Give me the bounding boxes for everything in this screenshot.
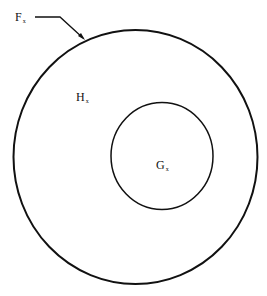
label-g: Gx xyxy=(156,159,169,172)
label-f: Fx xyxy=(15,11,26,24)
label-h: Hx xyxy=(76,91,89,104)
label-f-text: F xyxy=(15,10,22,24)
label-h-subscript: x xyxy=(86,98,89,104)
label-g-subscript: x xyxy=(166,166,169,172)
label-h-text: H xyxy=(76,90,85,104)
diagram-canvas xyxy=(0,0,267,296)
leader-line-f xyxy=(35,17,83,38)
label-f-subscript: x xyxy=(23,18,26,24)
inner-circle-g xyxy=(111,103,213,210)
label-g-text: G xyxy=(156,158,165,172)
outer-circle-f xyxy=(14,30,258,284)
